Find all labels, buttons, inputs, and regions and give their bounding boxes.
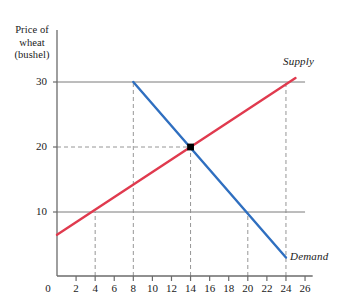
x-tick-label-14: 14 (181, 282, 201, 294)
equilibrium-point-marker (187, 144, 194, 151)
y-tick-label-20: 20 (21, 140, 47, 152)
x-tick-label-10: 10 (142, 282, 162, 294)
x-tick-label-6: 6 (104, 282, 124, 294)
demand-curve-label: Demand (290, 250, 328, 262)
supply-demand-figure: Price of wheat (bushel) 0 10203024681012… (0, 0, 347, 306)
x-tick-label-18: 18 (219, 282, 239, 294)
x-tick-label-26: 26 (295, 282, 315, 294)
x-tick-label-8: 8 (123, 282, 143, 294)
x-tick-label-4: 4 (85, 282, 105, 294)
x-tick-label-16: 16 (200, 282, 220, 294)
supply-curve (57, 78, 296, 235)
y-tick-label-10: 10 (21, 205, 47, 217)
x-tick-label-2: 2 (66, 282, 86, 294)
supply-curve-label: Supply (283, 55, 314, 67)
x-tick-label-12: 12 (161, 282, 181, 294)
x-tick-label-20: 20 (238, 282, 258, 294)
y-tick-label-30: 30 (21, 75, 47, 87)
x-axis-origin-label: 0 (40, 282, 56, 294)
x-tick-label-24: 24 (276, 282, 296, 294)
x-tick-label-22: 22 (257, 282, 277, 294)
